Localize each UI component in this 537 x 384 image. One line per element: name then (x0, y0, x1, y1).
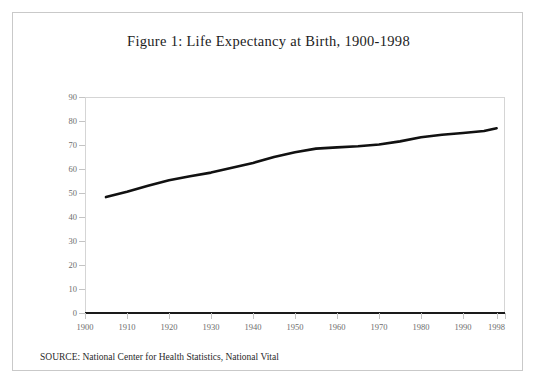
x-tick-mark (211, 313, 212, 319)
chart-plot-area: 0102030405060708090 19001910192019301940… (61, 73, 501, 318)
x-tick-mark (127, 313, 128, 319)
y-tick-label: 10 (55, 285, 77, 294)
x-tick-label: 1980 (401, 323, 441, 332)
x-tick-label: 1940 (233, 323, 273, 332)
x-tick-mark (497, 313, 498, 319)
series-polyline (106, 128, 497, 197)
y-tick-label: 50 (55, 189, 77, 198)
y-tick-label: 60 (55, 165, 77, 174)
x-tick-label: 1960 (317, 323, 357, 332)
x-tick-label: 1998 (477, 323, 517, 332)
y-tick-label: 0 (55, 309, 77, 318)
source-note: SOURCE: National Center for Health Stati… (40, 352, 279, 362)
x-tick-mark (295, 313, 296, 319)
x-tick-label: 1900 (65, 323, 105, 332)
figure-frame: Figure 1: Life Expectancy at Birth, 1900… (12, 12, 523, 371)
x-tick-label: 1910 (107, 323, 147, 332)
y-tick-label: 70 (55, 141, 77, 150)
x-tick-mark (169, 313, 170, 319)
y-tick-label: 40 (55, 213, 77, 222)
x-tick-mark (253, 313, 254, 319)
x-tick-mark (421, 313, 422, 319)
y-tick-label: 90 (55, 93, 77, 102)
x-tick-mark (379, 313, 380, 319)
x-tick-mark (85, 313, 86, 319)
x-tick-label: 1970 (359, 323, 399, 332)
x-tick-label: 1950 (275, 323, 315, 332)
y-tick-label: 80 (55, 117, 77, 126)
life-expectancy-line-series (85, 97, 505, 313)
x-tick-mark (337, 313, 338, 319)
y-tick-label: 30 (55, 237, 77, 246)
x-tick-label: 1930 (191, 323, 231, 332)
x-tick-label: 1920 (149, 323, 189, 332)
figure-title: Figure 1: Life Expectancy at Birth, 1900… (13, 33, 524, 50)
y-tick-label: 20 (55, 261, 77, 270)
x-tick-mark-end (505, 313, 506, 319)
x-tick-mark (463, 313, 464, 319)
